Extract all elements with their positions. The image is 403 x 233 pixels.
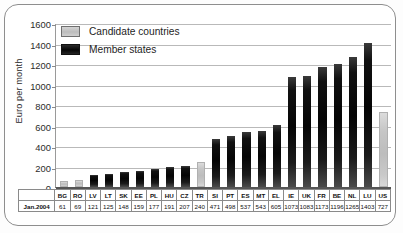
table-cell-code-bg: BG — [55, 190, 70, 201]
legend-label-candidate: Candidate countries — [89, 26, 180, 37]
bar-hu — [166, 167, 174, 187]
y-axis-label-1400: 1400 — [17, 39, 51, 50]
table-corner-blank — [19, 190, 55, 201]
bar-slot-el — [269, 24, 284, 187]
bar-uk — [303, 76, 311, 187]
data-table-wrapper: BGROLVLTSKEEPLHUCZTRSIPTESMTELIEUKFRBENL… — [18, 189, 391, 212]
table-cell-code-pt: PT — [223, 190, 238, 201]
bar-es — [242, 132, 250, 187]
table-cell-value-si: 471 — [207, 201, 222, 212]
bar-be — [334, 64, 342, 187]
legend: Candidate countries Member states — [61, 26, 180, 62]
table-cell-value-mt: 543 — [253, 201, 268, 212]
bar-slot-es — [239, 24, 254, 187]
table-cell-code-fr: FR — [314, 190, 329, 201]
table-cell-code-hu: HU — [162, 190, 177, 201]
table-cell-code-es: ES — [238, 190, 253, 201]
legend-swatch-candidate-icon — [61, 26, 80, 37]
bar-slot-mt — [254, 24, 269, 187]
table-row-values: Jan.200461691211251481591771912072404714… — [19, 201, 391, 212]
bar-slot-lu — [361, 24, 376, 187]
table-cell-value-lu: 1403 — [360, 201, 375, 212]
y-axis-label-200: 200 — [17, 162, 51, 173]
bar-slot-uk — [300, 24, 315, 187]
bar-ie — [288, 77, 296, 187]
data-table: BGROLVLTSKEEPLHUCZTRSIPTESMTELIEUKFRBENL… — [18, 189, 391, 212]
bar-nl — [349, 57, 357, 187]
bar-mt — [258, 131, 266, 187]
table-cell-code-lt: LT — [101, 190, 116, 201]
table-row-country-codes: BGROLVLTSKEEPLHUCZTRSIPTESMTELIEUKFRBENL… — [19, 190, 391, 201]
table-cell-code-uk: UK — [299, 190, 314, 201]
table-cell-value-nl: 1265 — [345, 201, 360, 212]
table-cell-code-sk: SK — [116, 190, 131, 201]
bar-fr — [318, 67, 326, 187]
y-axis-label-600: 600 — [17, 121, 51, 132]
chart-screenshot: Euro per month 1600140012001000800600400… — [0, 0, 403, 233]
legend-swatch-member-icon — [61, 44, 80, 55]
y-axis-label-1600: 1600 — [17, 19, 51, 30]
bar-ee — [136, 171, 144, 187]
table-cell-value-uk: 1083 — [299, 201, 314, 212]
legend-item-candidate-countries: Candidate countries — [61, 26, 180, 37]
bar-us — [379, 112, 387, 187]
table-cell-value-cz: 207 — [177, 201, 192, 212]
legend-label-member: Member states — [89, 44, 156, 55]
table-cell-value-lt: 125 — [101, 201, 116, 212]
bar-slot-be — [330, 24, 345, 187]
bar-slot-si — [208, 24, 223, 187]
table-cell-code-el: EL — [268, 190, 283, 201]
table-cell-value-pl: 177 — [146, 201, 161, 212]
bar-slot-fr — [315, 24, 330, 187]
bar-slot-tr — [193, 24, 208, 187]
table-cell-value-es: 537 — [238, 201, 253, 212]
bar-cz — [181, 166, 189, 187]
bar-sk — [120, 172, 128, 187]
bar-ro — [75, 180, 83, 187]
table-cell-code-lv: LV — [85, 190, 100, 201]
bar-si — [212, 139, 220, 187]
table-cell-value-el: 605 — [268, 201, 283, 212]
bar-lu — [364, 43, 372, 187]
y-axis-label-1000: 1000 — [17, 80, 51, 91]
table-cell-code-nl: NL — [345, 190, 360, 201]
table-cell-value-hu: 191 — [162, 201, 177, 212]
bar-tr — [197, 162, 205, 187]
bar-slot-ie — [285, 24, 300, 187]
bar-pt — [227, 136, 235, 187]
y-axis-label-800: 800 — [17, 101, 51, 112]
table-cell-code-cz: CZ — [177, 190, 192, 201]
table-cell-code-ie: IE — [284, 190, 299, 201]
y-axis-label-400: 400 — [17, 142, 51, 153]
y-axis-tick-labels: 16001400120010008006004002000 — [15, 24, 51, 188]
y-axis-label-1200: 1200 — [17, 60, 51, 71]
table-cell-code-si: SI — [207, 190, 222, 201]
legend-item-member-states: Member states — [61, 44, 180, 55]
plot-area: Candidate countries Member states — [55, 24, 391, 188]
table-cell-value-ee: 159 — [131, 201, 146, 212]
bar-pl — [151, 169, 159, 187]
table-cell-value-sk: 148 — [116, 201, 131, 212]
table-cell-value-ie: 1073 — [284, 201, 299, 212]
table-cell-code-tr: TR — [192, 190, 207, 201]
table-cell-value-bg: 61 — [55, 201, 70, 212]
table-cell-value-fr: 1173 — [314, 201, 329, 212]
table-cell-value-lv: 121 — [85, 201, 100, 212]
bar-el — [273, 125, 281, 187]
table-cell-code-be: BE — [329, 190, 344, 201]
bar-slot-nl — [345, 24, 360, 187]
table-cell-code-ro: RO — [70, 190, 85, 201]
bar-slot-pt — [224, 24, 239, 187]
table-cell-value-ro: 69 — [70, 201, 85, 212]
table-cell-code-pl: PL — [146, 190, 161, 201]
bar-slot-us — [376, 24, 391, 187]
table-cell-value-us: 727 — [375, 201, 390, 212]
table-cell-value-pt: 498 — [223, 201, 238, 212]
bar-lt — [105, 174, 113, 187]
bar-lv — [90, 175, 98, 187]
table-cell-code-ee: EE — [131, 190, 146, 201]
table-row-label-date: Jan.2004 — [19, 201, 55, 212]
bar-bg — [60, 181, 68, 187]
table-cell-code-us: US — [375, 190, 390, 201]
table-cell-value-tr: 240 — [192, 201, 207, 212]
